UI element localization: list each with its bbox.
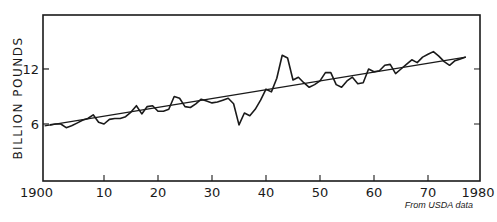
data-line xyxy=(50,52,466,128)
trend-line xyxy=(45,57,466,126)
x-tick-label: 50 xyxy=(312,185,329,200)
source-note: From USDA data xyxy=(405,200,473,210)
x-tick-label: 10 xyxy=(96,185,113,200)
x-tick-label: 60 xyxy=(366,185,383,200)
y-axis-ticks: 612 xyxy=(22,62,480,132)
plot-series xyxy=(45,52,466,128)
y-tick-label: 6 xyxy=(31,117,39,132)
x-tick-label: 1900 xyxy=(20,185,53,200)
line-chart: 612 1900102030405060701980 BILLION POUND… xyxy=(0,0,497,222)
y-axis-label: BILLION POUNDS xyxy=(11,36,25,159)
x-tick-label: 1980 xyxy=(461,185,494,200)
x-axis-ticks: 1900102030405060701980 xyxy=(20,175,495,200)
x-tick-label: 70 xyxy=(420,185,437,200)
x-tick-label: 20 xyxy=(150,185,167,200)
x-tick-label: 40 xyxy=(258,185,275,200)
x-tick-label: 30 xyxy=(204,185,221,200)
